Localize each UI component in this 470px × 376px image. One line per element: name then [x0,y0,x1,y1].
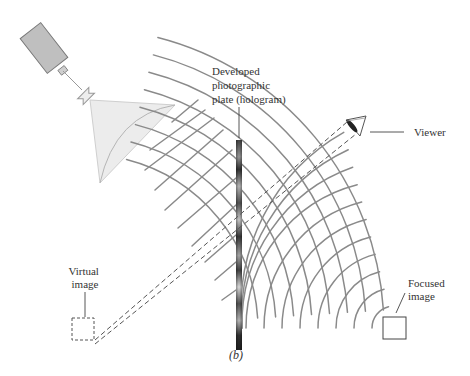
laser [20,23,82,90]
plate-label-line-3: plate (hologram) [212,93,286,106]
panel-label: (b) [229,348,243,362]
converging-wavefronts [241,132,388,328]
virtual-image-box [72,318,94,340]
plane-wavefront [222,290,236,300]
focused-image-label: Focused image [408,277,447,302]
viewer-eye [345,116,366,136]
plate-label-line-2: photographic [212,79,270,91]
plane-waves [145,100,236,300]
plate-label: Developed photographic plate (hologram) [212,65,286,106]
laser-body [20,23,68,74]
plane-wavefront [215,262,236,280]
converging-wavefront [354,289,384,328]
plane-wavefront [205,235,236,262]
hologram-plate [236,140,242,350]
viewer-label: Viewer [414,126,446,138]
plate-label-line-1: Developed [212,65,260,77]
hologram-reconstruction-diagram: Viewer Developed photographic plate (hol… [0,0,470,376]
focused-image-box [383,317,406,339]
focused-image: Focused image [383,277,447,339]
converging-wavefront [300,237,371,328]
virtual-image-label: Virtual image [68,265,101,290]
virtual-image: Virtual image [68,265,101,340]
focused-image-leader [396,293,405,313]
laser-beam [63,71,82,90]
sight-line-lower [95,134,356,344]
plane-wavefront [178,178,236,228]
